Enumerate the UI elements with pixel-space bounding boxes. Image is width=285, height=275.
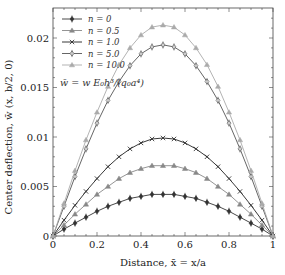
legend-label: n = 5.0 [88,49,120,59]
legend-item: n = 5.0 [62,49,120,59]
y-tick-label: 0.005 [20,181,49,192]
x-axis-label: Distance, x̄ = x/a [120,257,206,268]
x-tick-label: 0 [50,239,56,250]
series-n0 [51,191,275,240]
normalization-formula: w̄ = w E₀h³/(q₀a⁴) [60,77,144,88]
y-axis-label: Center deflection, w̄ (x, b/2, 0) [3,59,14,214]
y-tick-label: 0.01 [27,132,49,143]
legend-item: n = 0.5 [62,26,120,36]
legend: n = 0n = 0.5n = 1.0n = 5.0n = 10.0 [62,14,126,70]
legend-label: n = 1.0 [88,37,120,47]
legend-item: n = 0 [62,14,112,24]
x-tick-label: 0.8 [221,239,237,250]
legend-item: n = 10.0 [62,60,126,70]
legend-label: n = 10.0 [88,60,126,70]
series-n1-0 [51,136,275,238]
y-tick-label: 0.02 [27,33,49,44]
x-tick-label: 0.2 [89,239,105,250]
y-tick-label: 0 [43,231,49,242]
x-tick-label: 0.4 [133,239,149,250]
plot-axes: 00.20.40.60.8100.0050.010.0150.02 [20,8,276,250]
series-layer [50,23,275,240]
legend-label: n = 0.5 [88,26,120,36]
legend-item: n = 1.0 [62,37,120,47]
x-tick-label: 1 [270,239,276,250]
deflection-chart: 00.20.40.60.8100.0050.010.0150.02 n = 0n… [0,0,285,275]
x-tick-label: 0.6 [177,239,193,250]
series-n0-5 [50,163,275,238]
y-tick-label: 0.015 [20,82,49,93]
legend-label: n = 0 [88,14,112,24]
